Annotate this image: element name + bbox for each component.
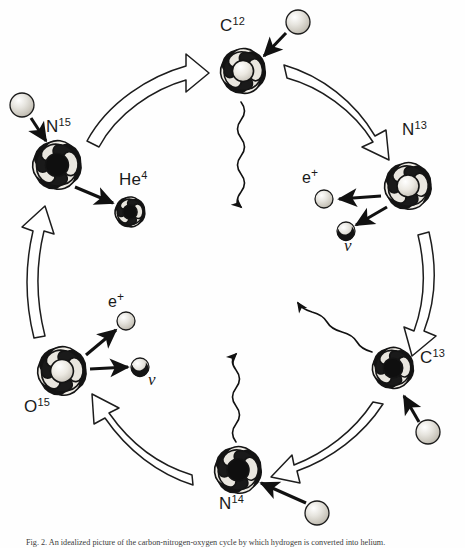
label-neutrino-n13: ν [344, 237, 352, 254]
nucleus-n15 [30, 138, 85, 193]
emission-arrow-neutrino-n13 [356, 207, 387, 225]
nucleon-core [46, 154, 69, 177]
particle-proton-n14 [305, 501, 329, 525]
cycle-arrow-n15-to-c12 [87, 54, 209, 147]
emission-arrow-positron-o15 [86, 330, 116, 355]
nucleus-n13 [382, 160, 435, 213]
cno-cycle-figure: C12 N13 C13 N14 O15 N15 He4 e+ ν e+ ν Fi… [0, 0, 465, 548]
label-n14: N14 [219, 494, 244, 512]
nucleon-core [227, 459, 249, 481]
gamma-ray-n14-up [233, 354, 240, 442]
cycle-arrow-o15-to-n15 [22, 206, 54, 338]
figure-caption: Fig. 2. An idealized picture of the carb… [26, 538, 446, 548]
cycle-arrow-group [22, 54, 436, 485]
emission-arrow-positron-n13 [339, 196, 381, 199]
nucleon-core-texture [233, 61, 252, 80]
particle-proton-c13 [416, 420, 440, 444]
proton-arrow-n15 [31, 118, 46, 141]
emission-arrow-he4 [75, 187, 113, 203]
nucleus-c12 [218, 46, 268, 97]
particle-positron-o15 [117, 312, 135, 330]
label-positron-n13: e+ [302, 167, 318, 186]
diagram-canvas [0, 0, 465, 548]
nucleon-core-texture [398, 176, 418, 196]
particle-arrow-group [31, 33, 419, 503]
label-c13: C13 [420, 348, 445, 366]
nucleon-core-texture [52, 361, 73, 382]
label-c12: C12 [220, 16, 245, 34]
particle-proton-n15 [10, 93, 34, 117]
label-n15: N15 [46, 117, 71, 135]
particle-proton-c12 [286, 10, 310, 34]
label-n13: N13 [402, 120, 427, 138]
cycle-arrow-n13-to-c13 [404, 232, 436, 356]
particles-group [10, 10, 440, 525]
proton-arrow-n14 [261, 483, 306, 503]
nucleon-core [123, 205, 137, 219]
gamma-ray-c13-upleft [298, 303, 372, 352]
nucleus-o15 [35, 344, 90, 399]
cycle-arrow-c12-to-n13 [284, 65, 389, 160]
label-positron-o15: e+ [108, 291, 124, 310]
cycle-arrow-n14-to-o15 [92, 394, 193, 485]
label-neutrino-o15: ν [148, 371, 156, 388]
cycle-arrow-c13-to-n14 [271, 402, 383, 483]
gamma-ray-group [233, 102, 373, 442]
label-he4: He4 [119, 170, 147, 188]
proton-arrow-c13 [404, 396, 419, 422]
label-o15: O15 [24, 397, 50, 415]
proton-arrow-c12 [264, 33, 286, 56]
particle-neutrino-o15 [131, 358, 149, 377]
gamma-ray-c12-down [238, 102, 245, 207]
emission-arrow-neutrino-o15 [90, 367, 128, 369]
nucleus-n14 [212, 444, 265, 497]
particle-positron-n13 [315, 190, 333, 208]
nucleon-core [383, 358, 402, 377]
nucleus-c13 [370, 345, 416, 391]
nucleus-he4 [114, 195, 148, 229]
